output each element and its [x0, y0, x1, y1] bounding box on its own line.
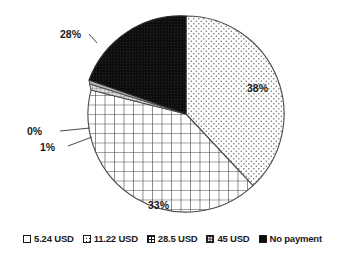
legend-label: 11.22 USD — [94, 234, 138, 244]
pie-label-28: 28% — [60, 28, 82, 40]
leader-line-0 — [60, 128, 90, 131]
legend-item-no-payment[interactable]: No payment — [259, 234, 322, 244]
legend-item-45-usd[interactable]: 45 USD — [206, 234, 249, 244]
empty-square-icon — [23, 235, 31, 243]
legend-label: 5.24 USD — [34, 234, 74, 244]
legend-item-11-22-usd[interactable]: 11.22 USD — [83, 234, 138, 244]
legend-item-28-5-usd[interactable]: 28.5 USD — [147, 234, 198, 244]
leader-line-1 — [68, 137, 92, 146]
crosshatch-square-icon — [147, 235, 155, 243]
pie-label-0: 0% — [27, 125, 43, 137]
legend-label: No payment — [270, 234, 322, 244]
solid-square-icon — [259, 235, 267, 243]
pie-label-38: 38% — [247, 82, 269, 94]
pie-label-33: 33% — [148, 199, 170, 211]
grid-square-icon — [206, 235, 214, 243]
legend-item-5-24-usd[interactable]: 5.24 USD — [23, 234, 74, 244]
pie-label-1: 1% — [40, 141, 56, 153]
legend-label: 28.5 USD — [158, 234, 198, 244]
legend-label: 45 USD — [217, 234, 249, 244]
pie-chart-figure: 28% 38% 33% 0% 1% 5.24 USD 11.22 USD 28.… — [0, 0, 345, 262]
pie-chart-canvas: 28% 38% 33% 0% 1% — [0, 0, 345, 225]
leader-line-28 — [89, 34, 97, 43]
chart-legend: 5.24 USD 11.22 USD 28.5 USD 45 USD No pa… — [0, 228, 345, 250]
dotted-square-icon — [83, 235, 91, 243]
